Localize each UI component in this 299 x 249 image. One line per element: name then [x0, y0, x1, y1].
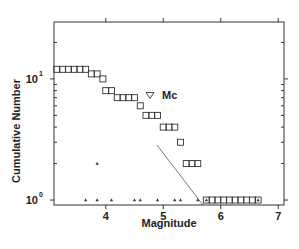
- y-axis-label: Cumulative Number: [10, 78, 22, 183]
- cumulative-point: [166, 124, 172, 130]
- cumulative-point: [114, 95, 120, 101]
- cumulative-point: [189, 161, 195, 167]
- cumulative-point: [195, 161, 201, 167]
- cumulative-point: [238, 197, 244, 203]
- x-tick-label: 4: [103, 210, 110, 222]
- incremental-point: [96, 198, 99, 201]
- cumulative-point: [100, 76, 106, 82]
- cumulative-point: [60, 66, 66, 72]
- incremental-point: [110, 198, 113, 201]
- fit-line: [157, 145, 203, 205]
- cumulative-point: [178, 139, 184, 145]
- cumulative-point: [244, 197, 250, 203]
- incremental-point: [133, 198, 136, 201]
- cumulative-point: [232, 197, 238, 203]
- mc-label: Mc: [162, 89, 177, 101]
- cumulative-point: [221, 197, 227, 203]
- y-tick-exponent: 0: [39, 191, 43, 198]
- cumulative-point: [249, 197, 255, 203]
- cumulative-point: [120, 95, 126, 101]
- incremental-point: [84, 198, 87, 201]
- y-tick-exponent: 1: [39, 70, 43, 77]
- cumulative-point: [226, 197, 232, 203]
- cumulative-point: [172, 124, 178, 130]
- y-tick-label: 10: [26, 194, 38, 206]
- cumulative-point: [83, 66, 89, 72]
- incremental-point: [205, 198, 208, 201]
- mc-marker: [146, 92, 154, 98]
- cumulative-point: [143, 112, 149, 118]
- cumulative-point: [149, 112, 155, 118]
- cumulative-point: [109, 88, 115, 94]
- x-axis-label: Magnitude: [142, 217, 197, 229]
- cumulative-point: [209, 197, 215, 203]
- incremental-point: [96, 162, 99, 165]
- cumulative-point: [71, 66, 77, 72]
- cumulative-point: [54, 66, 60, 72]
- incremental-point: [257, 198, 260, 201]
- x-tick-label: 6: [218, 210, 224, 222]
- cumulative-point: [94, 71, 100, 77]
- cumulative-point: [215, 197, 221, 203]
- plot-frame: [54, 22, 284, 205]
- cumulative-point: [126, 95, 132, 101]
- cumulative-point: [155, 112, 161, 118]
- chart: 4567100101 Magnitude Cumulative Number M…: [0, 0, 299, 249]
- y-tick-label: 10: [26, 73, 38, 85]
- incremental-point: [156, 198, 159, 201]
- incremental-point: [179, 198, 182, 201]
- x-tick-label: 7: [275, 210, 281, 222]
- cumulative-point: [160, 124, 166, 130]
- cumulative-point: [137, 103, 143, 109]
- incremental-point: [139, 198, 142, 201]
- cumulative-point: [103, 88, 109, 94]
- cumulative-point: [88, 71, 94, 77]
- cumulative-point: [77, 66, 83, 72]
- cumulative-point: [132, 95, 138, 101]
- cumulative-point: [183, 161, 189, 167]
- incremental-point: [173, 198, 176, 201]
- cumulative-point: [65, 66, 71, 72]
